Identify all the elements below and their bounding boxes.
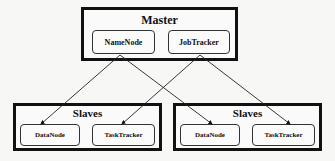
jobtracker-box: JobTracker: [168, 30, 230, 54]
slaves-title-1: Slaves: [16, 107, 159, 119]
master-title: Master: [84, 13, 235, 28]
tasktracker-label-2: TaskTracker: [264, 131, 302, 139]
namenode-label: NameNode: [105, 38, 143, 47]
namenode-box: NameNode: [92, 30, 155, 54]
tasktracker-box-1: TaskTracker: [92, 124, 155, 146]
datanode-label-1: DataNode: [35, 131, 65, 139]
tasktracker-box-2: TaskTracker: [252, 124, 315, 146]
datanode-box-2: DataNode: [180, 124, 240, 146]
jobtracker-label: JobTracker: [179, 38, 219, 47]
datanode-box-1: DataNode: [20, 124, 80, 146]
slaves-title-2: Slaves: [176, 107, 319, 119]
datanode-label-2: DataNode: [195, 131, 225, 139]
tasktracker-label-1: TaskTracker: [104, 131, 142, 139]
